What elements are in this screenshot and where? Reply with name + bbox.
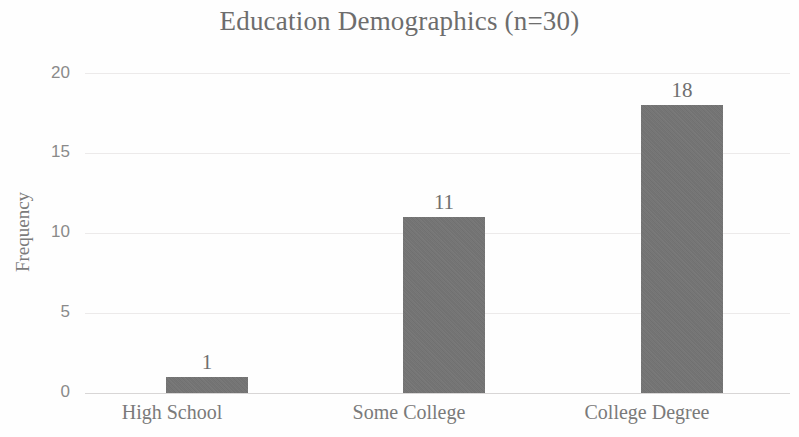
bar-chart: Education Demographics (n=30) Frequency … (0, 0, 799, 437)
bar-high-school[interactable] (166, 377, 248, 393)
x-category-label-college-degree: College Degree (571, 400, 723, 424)
x-axis-line (85, 393, 790, 394)
y-tick-label-0: 0 (18, 382, 70, 402)
plot-area: 1 11 18 (85, 73, 790, 393)
bar-some-college[interactable] (403, 217, 485, 393)
y-tick-label-20: 20 (18, 63, 70, 83)
chart-title: Education Demographics (n=30) (0, 4, 799, 38)
x-category-label-some-college: Some College (333, 400, 485, 424)
x-category-label-high-school: High School (96, 400, 248, 424)
bar-value-some-college: 11 (394, 190, 494, 214)
y-tick-label-10: 10 (18, 222, 70, 242)
gridline-20 (85, 73, 790, 74)
y-tick-label-5: 5 (18, 302, 70, 322)
y-tick-label-15: 15 (18, 142, 70, 162)
bar-value-college-degree: 18 (632, 78, 732, 102)
bar-college-degree[interactable] (641, 105, 723, 393)
bar-value-high-school: 1 (157, 350, 257, 374)
